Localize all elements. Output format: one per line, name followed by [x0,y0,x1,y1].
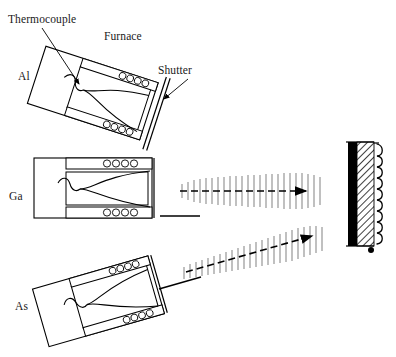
substrate-assembly [346,142,382,253]
mbe-diagram: Thermocouple Furnace Shutter Al Ga As [0,0,396,357]
as-beam-arrow [186,236,312,272]
label-thermocouple: Thermocouple [8,14,76,26]
shutter-leader [164,79,188,99]
cell-as-shutter-open[interactable] [159,277,201,289]
label-cell-as: As [15,301,28,313]
substrate-heater-coil [377,144,382,244]
diagram-canvas [0,0,396,357]
label-shutter: Shutter [158,65,192,77]
substrate-hatched-block [357,142,374,246]
substrate-terminal-dot [368,247,374,253]
label-cell-ga: Ga [9,191,23,203]
ga-beam [180,173,320,209]
label-furnace: Furnace [104,31,142,43]
as-beam [184,226,322,279]
substrate-black-bar [348,142,357,246]
cell-ga-furnace [66,172,148,205]
cell-ga [34,158,200,218]
cell-al [25,39,170,151]
cell-as [33,255,168,347]
label-cell-al: Al [18,71,30,83]
